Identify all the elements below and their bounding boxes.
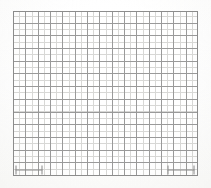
scale-bar-bottom-right [167,165,195,175]
grid-minor-lines [13,11,198,176]
grid-plate [13,11,198,176]
scale-bar-bottom-left [15,165,43,175]
scale-bar-bracket-icon [16,166,42,174]
grid-major-lines [13,11,198,176]
grid-border [13,11,198,176]
scale-bar-bracket-icon [168,166,194,174]
graph-paper-sheet [0,0,211,188]
